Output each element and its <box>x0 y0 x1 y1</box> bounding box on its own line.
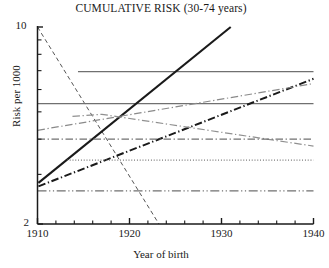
series-line-rising-grey-dashdot <box>38 84 314 131</box>
series-line-steep-decline-dashed <box>38 27 159 224</box>
x-tick-label-1910: 1910 <box>23 227 53 239</box>
series-line-arch-grey-dashdot <box>72 114 313 146</box>
x-tick-label-1930: 1930 <box>207 227 237 239</box>
x-tick-label-1940: 1940 <box>299 227 329 239</box>
series-line-rising-thick-solid-black <box>38 27 230 183</box>
x-tick-label-1920: 1920 <box>115 227 145 239</box>
y-tick-label-top: 10 <box>16 19 27 31</box>
series-group <box>38 27 314 224</box>
